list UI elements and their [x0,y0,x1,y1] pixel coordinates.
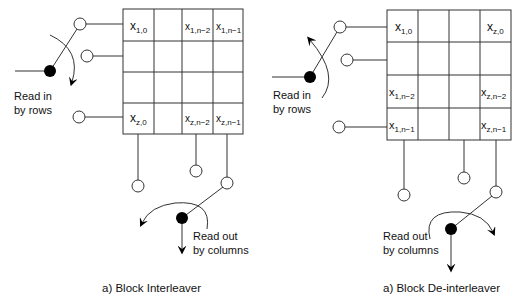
rotation-arrow-icon [429,212,493,239]
switch-pivot-icon [44,65,56,77]
read-in-label: Read in [14,90,52,102]
switch-pivot-icon [304,71,316,83]
rotation-arrow-icon [310,40,329,98]
read-out-label-2: by columns [383,244,439,256]
input-contact-icon [333,121,345,133]
output-contact-icon [190,165,202,177]
block-interleaver: x1,0 x1,n−2 x1,n−1 xz,0 xz,n−2 xz,n−1 Re… [14,9,249,294]
read-out-label-2: by columns [193,244,249,256]
input-contact-icon [334,21,346,33]
input-contact-icon [73,111,85,123]
read-in-label-2: by rows [14,104,52,116]
read-in-label: Read in [273,89,311,101]
output-contact-icon [398,189,410,201]
output-contact-icon [132,180,144,192]
read-out-label: Read out [193,230,238,242]
input-switch [272,21,387,133]
switch-pivot-icon [445,223,457,235]
input-contact-icon [81,50,93,62]
caption-deinterleaver: a) Block De-interleaver [383,282,500,294]
output-contact-icon [458,172,470,184]
block-deinterleaver: x1,0 xz,0 x1,n−2 xz,n−2 x1,n−1 xz,n−1 Re… [272,10,511,294]
read-out-label: Read out [383,230,428,242]
input-contact-icon [74,18,86,30]
interleaver-diagram: x1,0 x1,n−2 x1,n−1 xz,0 xz,n−2 xz,n−1 Re… [0,0,521,298]
read-in-label-2: by rows [273,103,311,115]
input-contact-icon [341,54,353,66]
caption-interleaver: a) Block Interleaver [102,282,201,294]
switch-pivot-icon [176,212,188,224]
